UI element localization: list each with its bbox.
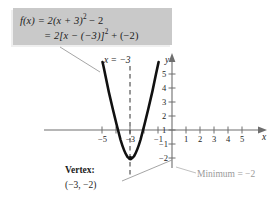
x-tick-label-3: 3 [212, 135, 216, 144]
leader-line-minimum [176, 167, 196, 173]
y-tick-label-2: 2 [162, 112, 166, 121]
y-tick-label-5: 5 [162, 70, 166, 79]
leader-line-vertex [122, 160, 172, 181]
x-tick-label-neg5: −5 [98, 135, 107, 144]
y-axis-label: y [165, 56, 169, 66]
y-tick-label-neg1: −1 [159, 140, 168, 149]
axis-of-symmetry-label: x = −3 [104, 56, 131, 66]
y-axis-arrowhead [169, 53, 176, 62]
vertex-coordinates-label: (−3, −2) [65, 181, 96, 191]
parabola-curve [103, 62, 159, 159]
y-tick-label-neg2: −2 [159, 154, 168, 163]
vertex-point-marker [128, 156, 132, 160]
x-tick-label-4: 4 [226, 135, 230, 144]
x-tick-label-5: 5 [240, 135, 244, 144]
x-tick-label-neg3: −3 [126, 135, 135, 144]
quadratic-function-figure: f(x) = 2(x + 3)2 − 2 = 2[x − (−3)]2 + (−… [0, 0, 276, 204]
leader-line-equation [60, 47, 100, 72]
vertex-label: Vertex: [65, 166, 95, 176]
y-tick-label-3: 3 [162, 98, 166, 107]
minimum-value-label: Minimum = −2 [197, 170, 255, 180]
y-tick-label-1: 1 [162, 126, 166, 135]
x-axis-label: x [262, 133, 266, 143]
x-tick-label-1: 1 [184, 135, 188, 144]
x-tick-label-2: 2 [198, 135, 202, 144]
y-tick-label-4: 4 [162, 84, 166, 93]
